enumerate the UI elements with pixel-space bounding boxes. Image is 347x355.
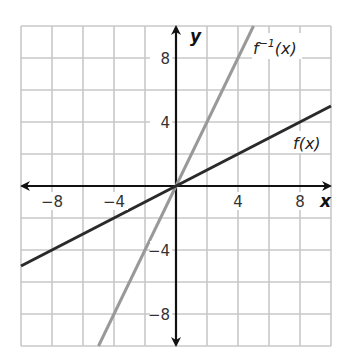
y-tick-label: −8	[148, 306, 170, 324]
coordinate-plane: xy −8−44884−4−8 f(x)f−1(x)	[0, 0, 347, 355]
y-axis-label: y	[190, 26, 202, 46]
x-axis-label: x	[319, 191, 332, 211]
y-tick-label: 8	[160, 50, 170, 68]
y-tick-label: 4	[160, 114, 170, 132]
x-tick-label: 4	[233, 193, 243, 211]
y-tick-label: −4	[148, 242, 170, 260]
x-tick-label: −8	[41, 193, 63, 211]
f-of-x-label: f(x)	[293, 134, 321, 153]
series-labels: f(x)f−1(x)	[252, 33, 324, 153]
x-tick-label: −4	[103, 193, 125, 211]
x-tick-label: 8	[295, 193, 305, 211]
